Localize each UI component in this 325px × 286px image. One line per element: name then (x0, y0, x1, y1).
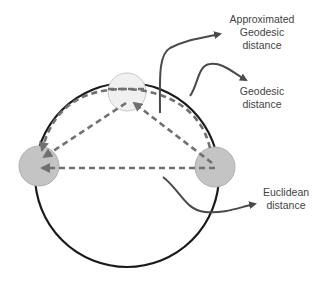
label-line: Euclidean (256, 186, 316, 199)
label-line: Geodesic (232, 85, 292, 98)
approx-geodesic-path-1 (134, 103, 212, 163)
label-line: distance (232, 98, 292, 111)
approx-geodesic-path-2 (44, 103, 126, 157)
node-top (108, 73, 146, 111)
label-line: Approximated (222, 13, 302, 26)
label-line: distance (256, 199, 316, 212)
callout-arrow-approx-geodesic (160, 34, 220, 113)
label-line: Geodesic (222, 26, 302, 39)
node-left (19, 146, 59, 186)
label-euclidean: Euclidean distance (256, 186, 316, 212)
label-approx-geodesic: Approximated Geodesic distance (222, 13, 302, 52)
label-geodesic: Geodesic distance (232, 85, 292, 111)
label-line: distance (222, 39, 302, 52)
